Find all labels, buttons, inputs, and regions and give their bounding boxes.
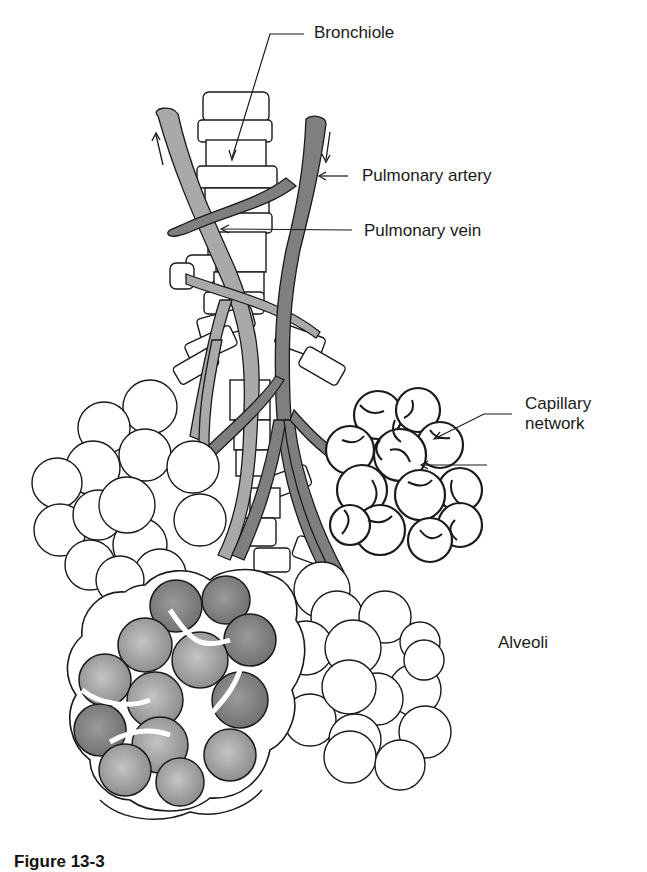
label-alveoli: Alveoli [498, 633, 548, 653]
alveoli-cluster-gray [67, 570, 304, 820]
figure-caption: Figure 13-3 [14, 852, 105, 872]
label-pulmonary-vein: Pulmonary vein [364, 221, 481, 241]
label-capillary-network-line1: Capillary [525, 394, 591, 414]
label-capillary-network-line2: network [525, 414, 585, 434]
capillary-network-cluster [326, 388, 482, 562]
alveoli-cluster-right-white [279, 562, 451, 790]
label-bronchiole: Bronchiole [314, 23, 394, 43]
label-pulmonary-artery: Pulmonary artery [362, 166, 491, 186]
